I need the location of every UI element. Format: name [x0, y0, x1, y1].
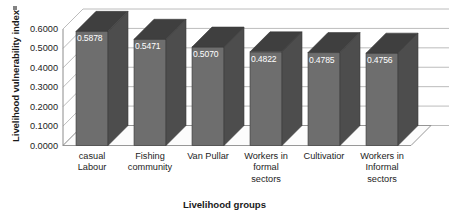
bar-side-face — [224, 27, 244, 145]
bar-front-face — [192, 47, 224, 145]
bar-front-face — [134, 39, 166, 145]
bar-side-face — [108, 11, 128, 145]
data-label: 0.5070 — [193, 49, 229, 59]
data-label: 0.4822 — [251, 54, 287, 64]
bar-front-face — [76, 31, 108, 145]
data-label: 0.4785 — [309, 55, 345, 65]
x-axis-category-label: Workers in Informal sectors — [348, 151, 416, 185]
bar-front-face — [250, 52, 282, 146]
data-label: 0.5471 — [135, 41, 171, 51]
bar-front-face — [366, 53, 398, 145]
bar-side-face — [166, 19, 186, 145]
bar-chart: Livelihood vulnerability index 0.00000.1… — [0, 0, 449, 221]
x-axis-title: Livelihood groups — [0, 199, 449, 210]
plot-area — [0, 0, 449, 221]
data-label: 0.4756 — [367, 55, 403, 65]
data-label: 0.5878 — [77, 33, 113, 43]
bar-front-face — [308, 53, 340, 146]
